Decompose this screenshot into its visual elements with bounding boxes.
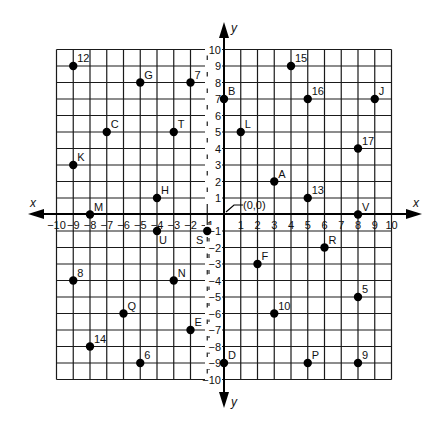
y-tick-label: −5 [208,291,221,303]
point-marker-icon [371,95,379,103]
data-point-17: 17 [354,135,374,153]
x-tick-label: 5 [305,219,311,231]
y-tick-label: 4 [215,143,221,155]
point-marker-icon [304,359,312,367]
data-point-7: 7 [186,69,200,87]
point-label: 7 [195,69,201,81]
point-marker-icon [170,276,178,284]
point-marker-icon [220,359,228,367]
point-label: 13 [312,184,324,196]
data-point-T: T [170,118,185,136]
point-marker-icon [69,161,77,169]
point-label: S [196,234,203,246]
y-tick-label: 8 [215,77,221,89]
x-tick-label: −7 [100,219,113,231]
point-marker-icon [103,128,111,136]
data-point-K: K [69,151,85,169]
y-tick-label: 1 [215,192,221,204]
data-point-C: C [103,118,119,136]
x-tick-label: −8 [84,219,97,231]
x-tick-label: −5 [134,219,147,231]
point-label: 14 [94,333,106,345]
x-tick-label: 6 [321,219,327,231]
data-point-J: J [371,85,385,103]
coordinate-plane: x x y y (0,0) −10−9−8−7−6−5−4−3−2−112345… [0,0,445,424]
x-tick-label: 7 [338,219,344,231]
point-marker-icon [270,177,278,185]
data-point-15: 15 [287,52,307,70]
point-label: U [159,234,167,246]
data-point-D: D [220,349,236,367]
y-tick-label: 2 [215,176,221,188]
y-axis-label-top: y [230,21,238,35]
data-point-12: 12 [69,52,89,70]
point-marker-icon [287,62,295,70]
point-marker-icon [170,128,178,136]
point-label: 17 [362,135,374,147]
data-point-G: G [136,69,153,87]
x-axis-label-left: x [29,196,37,210]
data-point-A: A [270,168,286,186]
y-tick-label: 9 [215,60,221,72]
point-label: K [77,151,85,163]
x-tick-label: 4 [288,219,294,231]
point-label: D [228,349,236,361]
y-tick-label: 5 [215,126,221,138]
point-label: L [245,118,251,130]
point-marker-icon [270,309,278,317]
point-label: 10 [278,300,290,312]
x-tick-label: −6 [117,219,130,231]
point-label: R [329,234,337,246]
x-tick-label: 2 [254,219,260,231]
point-marker-icon [237,128,245,136]
point-label: M [94,201,103,213]
point-marker-icon [203,227,211,235]
point-label: V [362,201,370,213]
x-tick-label: 9 [372,219,378,231]
y-tick-label: −3 [208,258,221,270]
data-point-5: 5 [354,283,368,301]
data-point-H: H [153,184,169,202]
x-tick-label: 8 [355,219,361,231]
data-point-16: 16 [304,85,324,103]
point-label: C [111,118,119,130]
point-label: N [178,267,186,279]
point-marker-icon [354,144,362,152]
point-marker-icon [186,78,194,86]
point-marker-icon [304,95,312,103]
data-point-9: 9 [354,349,368,367]
point-marker-icon [186,326,194,334]
data-point-14: 14 [86,333,106,351]
point-marker-icon [136,359,144,367]
x-tick-label: −9 [67,219,80,231]
data-point-13: 13 [304,184,324,202]
point-marker-icon [354,359,362,367]
y-tick-label: −2 [208,242,221,254]
x-tick-label: −10 [47,219,66,231]
data-point-N: N [170,267,186,285]
point-marker-icon [153,194,161,202]
point-label: 6 [144,349,150,361]
y-axis-label-bottom: y [230,395,238,409]
data-point-V: V [354,201,370,219]
y-tick-label: −7 [208,324,221,336]
y-tick-label: 10 [209,44,221,56]
point-label: A [278,168,286,180]
point-marker-icon [320,243,328,251]
point-marker-icon [304,194,312,202]
data-point-R: R [320,234,336,252]
y-tick-label: 6 [215,110,221,122]
x-tick-label: 1 [238,219,244,231]
data-point-L: L [237,118,251,136]
point-label: 8 [77,267,83,279]
y-axis-down-arrow-icon [219,392,229,408]
point-marker-icon [354,210,362,218]
point-label: 15 [295,52,307,64]
point-marker-icon [136,78,144,86]
x-tick-label: −2 [184,219,197,231]
point-marker-icon [354,293,362,301]
y-tick-label: −10 [202,374,221,386]
point-label: G [144,69,153,81]
point-label: B [228,85,235,97]
point-marker-icon [119,309,127,317]
